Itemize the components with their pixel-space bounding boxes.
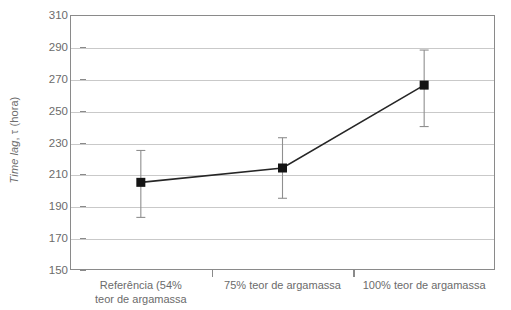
y-tick-mark	[80, 270, 86, 271]
x-tick-mark	[353, 270, 354, 277]
y-tick-label: 230	[24, 137, 68, 149]
y-tick-label: 310	[24, 9, 68, 21]
y-tick-label: 210	[24, 168, 68, 180]
x-category-label: 100% teor de argamassa	[353, 278, 495, 292]
x-category-label: Referência (54% teor de argamassa	[70, 278, 212, 306]
gridline	[71, 48, 494, 49]
y-tick-label: 170	[24, 232, 68, 244]
y-tick-label: 270	[24, 73, 68, 85]
x-category-label: 75% teor de argamassa	[212, 278, 354, 292]
y-axis-ticks: 150170190210230250270290310	[16, 0, 68, 310]
gridline	[71, 80, 494, 81]
gridline	[71, 207, 494, 208]
y-tick-label: 150	[24, 264, 68, 276]
gridline	[71, 239, 494, 240]
y-tick-label: 250	[24, 105, 68, 117]
y-tick-label: 290	[24, 41, 68, 53]
plot-area	[70, 15, 495, 270]
gridline	[71, 144, 494, 145]
gridline	[71, 112, 494, 113]
y-tick-label: 190	[24, 200, 68, 212]
x-tick-mark	[212, 270, 213, 277]
chart-container: Time lag, τ (hora) 150170190210230250270…	[0, 0, 511, 310]
gridline	[71, 175, 494, 176]
